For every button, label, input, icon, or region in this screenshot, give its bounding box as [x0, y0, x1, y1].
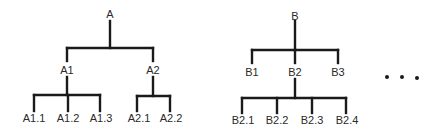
node-b2-4: B2.4	[336, 114, 359, 126]
node-b3: B3	[331, 66, 344, 78]
node-a2-2: A2.2	[160, 112, 183, 124]
node-b: B	[291, 10, 298, 22]
node-b2-1: B2.1	[232, 114, 255, 126]
node-a2: A2	[146, 64, 159, 76]
continuation-ellipsis	[385, 75, 419, 80]
node-b2-3: B2.3	[301, 114, 324, 126]
node-a1-2: A1.2	[57, 112, 80, 124]
tree-a: A A1 A2 A1.1 A1.2 A1.3 A2.1 A2.2	[23, 8, 183, 124]
node-a1: A1	[60, 64, 73, 76]
tree-b: B B1 B2 B3 B2.1 B2.2 B2.3 B2.4	[232, 10, 359, 126]
tree-diagram: A A1 A2 A1.1 A1.2 A1.3 A2.1 A2.2 B B1 B2…	[0, 0, 435, 138]
node-a1-3: A1.3	[90, 112, 113, 124]
node-a1-1: A1.1	[23, 112, 46, 124]
node-b1: B1	[245, 66, 258, 78]
node-b2: B2	[288, 66, 301, 78]
node-a2-1: A2.1	[128, 112, 151, 124]
node-b2-2: B2.2	[266, 114, 289, 126]
node-a: A	[106, 8, 114, 20]
